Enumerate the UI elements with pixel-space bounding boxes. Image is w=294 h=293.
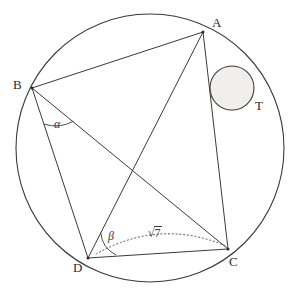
segment-BD <box>32 88 88 258</box>
segment-AB <box>32 32 203 88</box>
geometry-canvas <box>0 0 294 293</box>
vertex-dot-B <box>31 87 34 90</box>
angle-label-alpha: α <box>54 118 60 130</box>
vertex-dot-D <box>87 257 90 260</box>
radicand-value: 7 <box>154 226 162 239</box>
circumcircle <box>16 14 284 282</box>
vertex-label-T: T <box>255 99 263 112</box>
angle-label-beta: β <box>108 230 114 242</box>
vertex-label-B: B <box>13 78 22 91</box>
tangent-circle <box>210 66 254 110</box>
vertex-label-D: D <box>73 261 82 274</box>
vertex-label-C: C <box>229 255 238 268</box>
vertex-dot-A <box>202 31 205 34</box>
segment-BC <box>32 88 228 249</box>
segment-AC <box>203 32 228 249</box>
geometry-figure: A B C D T α β √7 <box>0 0 294 293</box>
vertex-label-A: A <box>212 16 221 29</box>
segment-AD <box>88 32 203 258</box>
length-label-sqrt7: √7 <box>148 226 162 239</box>
vertex-dot-C <box>227 248 230 251</box>
